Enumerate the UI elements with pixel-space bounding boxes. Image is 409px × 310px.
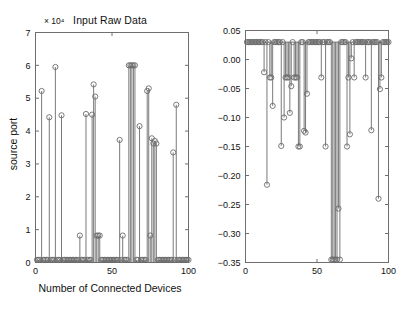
y-tick-label-input-raw-data: 1 (25, 225, 30, 235)
y-tick-label-feature-extracted: −0.05 (218, 84, 241, 94)
y-tick-label-feature-extracted: −0.10 (218, 113, 241, 123)
y-tick-label-input-raw-data: 0 (25, 258, 30, 268)
stem-plot-input-raw-data: 01234567050100 (25, 28, 196, 276)
plot-frame-input-raw-data (36, 33, 189, 263)
figure-root: × 10⁴ Input Raw Data Number of Connected… (0, 0, 409, 310)
plots-canvas: 012345670501000.050.00−0.05−0.10−0.15−0.… (0, 0, 409, 310)
stem-markers-feature-extracted (244, 40, 391, 263)
y-tick-label-input-raw-data: 5 (25, 93, 30, 103)
x-tick-label-input-raw-data: 100 (181, 266, 196, 276)
y-tick-label-feature-extracted: −0.35 (218, 258, 241, 268)
stem-lines-input-raw-data (37, 65, 188, 262)
x-tick-label-feature-extracted: 0 (243, 266, 248, 276)
y-tick-label-feature-extracted: −0.25 (218, 200, 241, 210)
y-tick-label-feature-extracted: 0.00 (223, 55, 241, 65)
x-tick-label-input-raw-data: 0 (33, 266, 38, 276)
x-tick-label-feature-extracted: 50 (312, 266, 322, 276)
y-tick-label-input-raw-data: 6 (25, 61, 30, 71)
stem-lines-feature-extracted (247, 42, 389, 260)
x-tick-label-feature-extracted: 100 (381, 266, 396, 276)
stem-plot-feature-extracted: 0.050.00−0.05−0.10−0.15−0.20−0.25−0.30−0… (218, 26, 396, 276)
y-tick-label-feature-extracted: −0.20 (218, 171, 241, 181)
x-tick-label-input-raw-data: 50 (107, 266, 117, 276)
y-tick-label-feature-extracted: −0.15 (218, 142, 241, 152)
y-tick-label-feature-extracted: −0.30 (218, 229, 241, 239)
y-tick-label-input-raw-data: 7 (25, 28, 30, 38)
stem-markers-input-raw-data (34, 63, 191, 263)
y-tick-label-feature-extracted: 0.05 (223, 26, 241, 36)
y-tick-label-input-raw-data: 2 (25, 192, 30, 202)
y-tick-label-input-raw-data: 4 (25, 126, 30, 136)
y-tick-label-input-raw-data: 3 (25, 159, 30, 169)
